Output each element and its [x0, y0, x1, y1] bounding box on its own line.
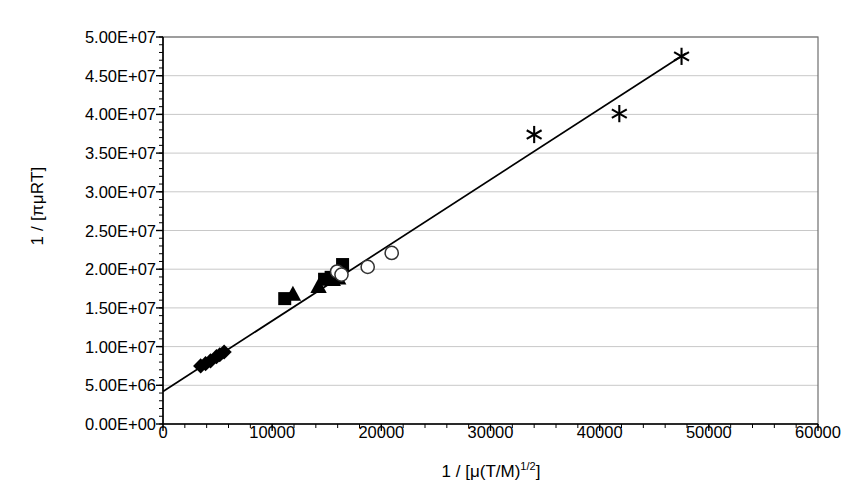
x-axis-title-suffix: ] — [536, 462, 541, 481]
data-point-asterisk — [527, 126, 542, 143]
y-axis-tick-label: 1.50E+07 — [28, 300, 156, 317]
x-axis-tick-label: 50000 — [686, 424, 732, 441]
x-axis-tick-label: 60000 — [795, 424, 841, 441]
y-axis-tick-label: 2.00E+07 — [28, 261, 156, 278]
data-point-open-circle — [361, 260, 374, 273]
trend-line — [163, 53, 686, 391]
y-axis-tick-label: 3.00E+07 — [28, 184, 156, 201]
y-axis-tick-labels: 0.00E+005.00E+061.00E+071.50E+072.00E+07… — [28, 0, 156, 492]
y-axis-tick-label: 2.50E+07 — [28, 223, 156, 240]
x-axis-title-greek: μ — [470, 462, 480, 481]
y-axis-tick-label: 5.00E+07 — [28, 29, 156, 46]
y-axis-tick-label: 5.00E+06 — [28, 377, 156, 394]
data-point-asterisk — [674, 48, 689, 65]
y-axis-tick-label: 1.00E+07 — [28, 339, 156, 356]
series-asterisk — [527, 48, 689, 143]
x-axis-title-mid: (T/M) — [480, 462, 521, 481]
y-axis-tick-label: 3.50E+07 — [28, 145, 156, 162]
data-point-open-circle — [385, 246, 398, 259]
y-axis-tick-label: 4.00E+07 — [28, 106, 156, 123]
x-axis-title: 1 / [μ(T/M)1/2] — [163, 460, 819, 482]
x-axis-title-prefix: 1 / [ — [442, 462, 470, 481]
x-axis-tick-label: 20000 — [358, 424, 404, 441]
x-axis-tick-label: 40000 — [577, 424, 623, 441]
x-axis-tick-label: 30000 — [468, 424, 514, 441]
data-point-asterisk — [612, 105, 627, 122]
x-axis-title-exponent: 1/2 — [520, 460, 535, 472]
scatter-chart-figure: 1 / [πμRT] 1 / [μ(T/M)1/2] 0.00E+005.00E… — [0, 0, 849, 492]
y-axis-tick-label: 4.50E+07 — [28, 68, 156, 85]
data-point-open-circle — [335, 268, 348, 281]
series-filled-diamond — [193, 344, 232, 373]
x-axis-tick-label: 0 — [158, 424, 167, 441]
x-axis-tick-label: 10000 — [249, 424, 295, 441]
x-axis-tick-labels: 0100002000030000400005000060000 — [0, 424, 849, 452]
